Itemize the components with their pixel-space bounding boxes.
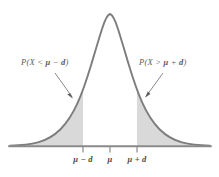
- left-label-suffix: ): [65, 57, 68, 67]
- right-tail-probability-label: P(X > μ + d): [139, 57, 186, 67]
- normal-distribution-figure: [0, 0, 219, 177]
- annotation-leader-lines: [55, 73, 163, 99]
- right-label-operator: +: [168, 57, 179, 67]
- axis-tick-label-mean: μ: [108, 154, 113, 164]
- right-tail-shaded-area: [129, 64, 211, 146]
- left-label-prefix: P(X <: [21, 57, 45, 67]
- left-tail-shaded-area: [10, 14, 210, 146]
- axis-tick-label-lower-bound: μ − d: [73, 154, 92, 164]
- axis-tick-label-upper-bound: μ + d: [127, 154, 146, 164]
- shaded-tail-regions: [10, 14, 210, 146]
- left-label-operator: −: [50, 57, 61, 67]
- right-label-prefix: P(X >: [139, 57, 163, 67]
- bell-curve: [10, 14, 210, 146]
- left-tail-probability-label: P(X < μ − d): [21, 57, 68, 67]
- right-label-suffix: ): [183, 57, 186, 67]
